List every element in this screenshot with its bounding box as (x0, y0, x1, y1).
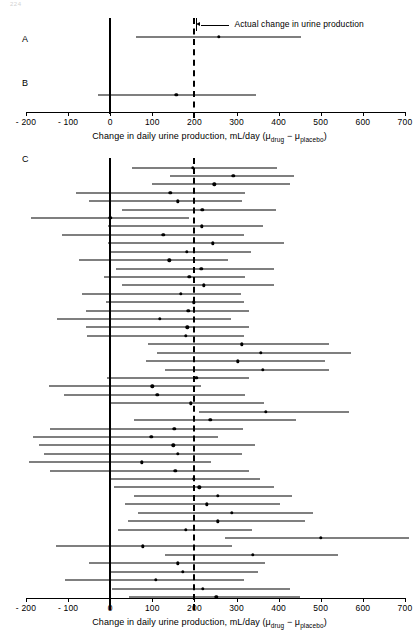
axis-tick-label: 300 (229, 117, 244, 127)
confidence-interval-figure: 224 A B - 200- 1000100200300400500600700… (0, 0, 419, 631)
axis-tick-label: 700 (398, 117, 413, 127)
axis-tick (152, 112, 153, 116)
sample-mean-dot (231, 174, 234, 177)
confidence-interval-line (62, 234, 244, 235)
axis-tick-label: - 200 (16, 117, 36, 127)
confidence-interval-line (64, 394, 245, 395)
sample-mean-dot (179, 292, 182, 295)
sample-mean-dot (213, 183, 216, 186)
axis-tick (237, 598, 238, 602)
sample-mean-dot (217, 35, 220, 38)
sample-mean-dot (201, 587, 204, 590)
panel-c: C (0, 150, 419, 612)
sample-mean-dot (156, 393, 159, 396)
sample-mean-dot (174, 469, 177, 472)
axis-bottom-title: Change in daily urine production, mL/day… (0, 617, 419, 629)
sample-mean-dot (169, 191, 172, 194)
sample-mean-dot (202, 284, 205, 287)
sample-mean-dot (205, 503, 208, 506)
confidence-interval-line (79, 260, 228, 261)
confidence-interval-line (76, 192, 245, 193)
confidence-interval-line (44, 453, 242, 454)
axis-tick-label: 400 (271, 603, 286, 613)
sample-mean-dot (176, 562, 179, 565)
axis-tick (321, 112, 322, 116)
axis-tick-label: - 200 (16, 603, 36, 613)
confidence-interval-line (199, 411, 348, 412)
confidence-interval-line (57, 319, 231, 320)
confidence-interval-line (110, 251, 251, 252)
axis-tick (405, 112, 406, 116)
axis-tick-label: 0 (108, 603, 113, 613)
axis-tick (68, 598, 69, 602)
confidence-interval-line (29, 462, 211, 463)
axis-tick-label: 600 (355, 117, 370, 127)
confidence-interval-line (138, 512, 313, 513)
axis-tick-label: 200 (187, 603, 202, 613)
confidence-interval-line (148, 344, 329, 345)
panel-b-plot (0, 64, 419, 112)
confidence-interval-line (39, 445, 255, 446)
annotation-leader-line (201, 25, 229, 26)
sample-mean-dot (151, 385, 154, 388)
sample-mean-dot (150, 435, 153, 438)
zero-reference-line (109, 158, 111, 610)
sample-mean-dot (167, 258, 170, 261)
sample-mean-dot (162, 233, 165, 236)
sample-mean-dot (184, 528, 187, 531)
annotation-arrow-icon (196, 22, 200, 26)
confidence-interval-line (108, 243, 284, 244)
confidence-interval-line (122, 209, 276, 210)
axis-tick (194, 598, 195, 602)
axis-tick-label: - 100 (58, 117, 78, 127)
sample-mean-dot (240, 343, 243, 346)
axis-tick (363, 598, 364, 602)
axis-top-title: Change in daily urine production, mL/day… (0, 131, 419, 143)
sample-mean-dot (186, 309, 189, 312)
confidence-interval-line (125, 504, 280, 505)
panel-c-plot (0, 150, 419, 612)
axis-tick-label: - 100 (58, 603, 78, 613)
annotation-label: Actual change in urine production (234, 19, 363, 29)
confidence-interval-line (109, 479, 261, 480)
axis-tick (68, 112, 69, 116)
sample-mean-dot (154, 578, 157, 581)
axis-tick-label: 500 (313, 117, 328, 127)
confidence-interval-line (157, 352, 352, 353)
axis-tick-label: 600 (355, 603, 370, 613)
axis-tick-label: 100 (145, 603, 160, 613)
axis-tick-label: 100 (145, 117, 160, 127)
page-number: 224 (10, 1, 22, 7)
confidence-interval-line (104, 276, 245, 277)
axis-tick-label: 500 (313, 603, 328, 613)
panel-b: B (0, 64, 419, 112)
confidence-interval-line (50, 428, 243, 429)
axis-bottom-line (26, 598, 405, 599)
sample-mean-dot (188, 275, 191, 278)
confidence-interval-line (152, 184, 290, 185)
true-value-reference-line (193, 158, 195, 610)
sample-mean-dot (216, 519, 219, 522)
axis-tick (110, 598, 111, 602)
sample-mean-dot (251, 553, 254, 556)
sample-mean-dot (201, 208, 204, 211)
axis-tick-label: 200 (187, 117, 202, 127)
confidence-interval-row (0, 31, 419, 42)
axis-tick (26, 598, 27, 602)
confidence-interval-line (165, 369, 329, 370)
sample-mean-dot (185, 250, 188, 253)
confidence-interval-line (134, 420, 296, 421)
confidence-interval-line (107, 378, 249, 379)
axis-tick (405, 598, 406, 602)
sample-mean-dot (209, 418, 212, 421)
sample-mean-dot (176, 452, 179, 455)
sample-mean-dot (173, 427, 176, 430)
confidence-interval-line (82, 293, 240, 294)
sample-mean-dot (175, 93, 178, 96)
axis-tick (152, 598, 153, 602)
confidence-interval-line (33, 436, 218, 437)
sample-mean-dot (158, 317, 161, 320)
axis-tick (321, 598, 322, 602)
sample-mean-dot (261, 368, 264, 371)
sample-mean-dot (172, 444, 175, 447)
